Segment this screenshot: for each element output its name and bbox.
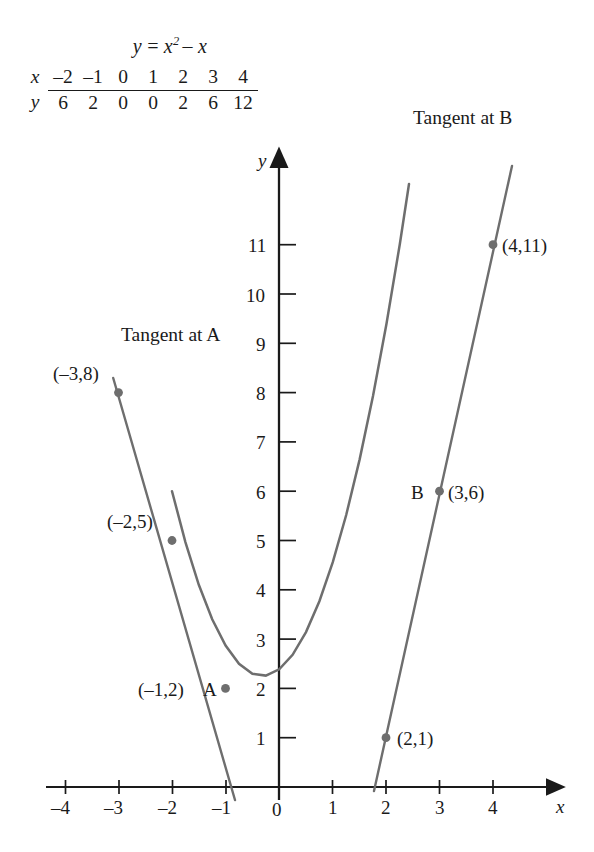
- data-point: [221, 684, 230, 693]
- x-axis-label: x: [556, 797, 564, 816]
- y-tick-label: 4: [256, 581, 266, 600]
- tangent-line-b: [374, 166, 512, 791]
- data-point: [382, 733, 391, 742]
- y-tick-label: 3: [256, 631, 266, 650]
- x-tick-label: 1: [328, 798, 338, 817]
- data-point: [168, 536, 177, 545]
- point-letter-a: A: [203, 680, 217, 699]
- y-tick-label: 2: [256, 680, 266, 699]
- point-label-3-6: (3,6): [448, 483, 484, 502]
- tangent-line-a: [113, 378, 235, 800]
- y-axis-label: y: [258, 151, 266, 170]
- data-point: [114, 388, 123, 397]
- x-tick-label: –4: [51, 798, 70, 817]
- point-label-2-1: (2,1): [397, 729, 433, 748]
- x-tick-label: –3: [104, 798, 123, 817]
- x-tick-label: 3: [435, 798, 445, 817]
- data-point: [435, 487, 444, 496]
- x-origin-label: 0: [272, 800, 282, 819]
- y-tick-label: 9: [256, 335, 266, 354]
- y-tick-label: 11: [248, 236, 266, 255]
- data-point: [489, 240, 498, 249]
- y-tick-label: 8: [256, 384, 266, 403]
- point-label-4-11: (4,11): [502, 236, 547, 255]
- x-tick-label: 2: [381, 798, 391, 817]
- y-tick-label: 6: [256, 483, 266, 502]
- parabola-curve: [172, 184, 409, 676]
- x-tick-label: 4: [488, 798, 498, 817]
- y-tick-label: 5: [256, 532, 266, 551]
- graph-figure: y=x2– x x –2 –1 0 1 2 3 4 y 6 2 0 0 2 6 …: [0, 0, 594, 852]
- tangent-a-annotation: Tangent at A: [121, 325, 220, 345]
- tangent-b-annotation: Tangent at B: [413, 108, 512, 128]
- y-axis-ticks: [279, 245, 296, 738]
- y-tick-label: 7: [256, 433, 266, 452]
- point-label-neg2-5: (–2,5): [107, 512, 153, 531]
- y-tick-label: 10: [246, 286, 265, 305]
- x-tick-label: –1: [212, 798, 231, 817]
- y-tick-label: 1: [256, 729, 266, 748]
- point-letter-b: B: [411, 483, 424, 502]
- point-label-neg3-8: (–3,8): [53, 364, 99, 383]
- point-label-neg1-2: (–1,2): [138, 680, 184, 699]
- x-tick-label: –2: [158, 798, 177, 817]
